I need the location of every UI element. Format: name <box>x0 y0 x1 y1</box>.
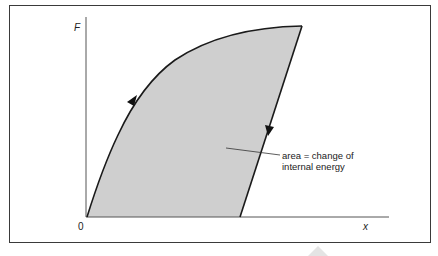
hysteresis-area <box>87 26 302 217</box>
watermark-triangle <box>308 246 328 256</box>
y-axis-label: F <box>74 23 80 33</box>
area-annotation: area = change of internal energy <box>282 151 354 172</box>
annotation-line-2: internal energy <box>282 162 354 173</box>
force-extension-diagram <box>0 0 438 256</box>
annotation-line-1: area = change of <box>282 151 354 162</box>
origin-label: 0 <box>78 222 84 232</box>
x-axis-label: x <box>363 222 368 232</box>
